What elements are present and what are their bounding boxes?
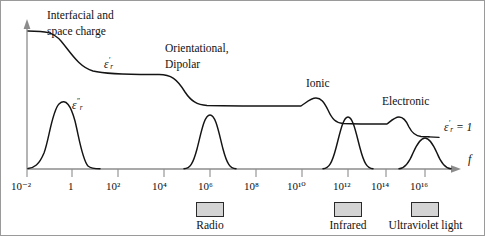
- x-tick-label-5: 10⁸: [244, 180, 259, 192]
- annotation-ionic: Ionic: [306, 77, 330, 90]
- dielectric-permittivity-figure: Interfacial and space charge Orientation…: [0, 0, 485, 236]
- x-axis: [27, 165, 461, 172]
- loss-peak-ionic: [323, 117, 373, 169]
- band-swatch-infrared: [334, 202, 362, 217]
- annotation-interfacial-line1: Interfacial and: [47, 9, 114, 22]
- annotation-orientational-line1: Orientational,: [165, 42, 229, 55]
- band-swatch-radio: [196, 202, 224, 217]
- band-label-radio: Radio: [170, 219, 250, 232]
- loss-peak-interfacial: [28, 102, 100, 169]
- x-tick-label-7: 10¹²: [333, 180, 351, 192]
- epsilon-imaginary-label: ε″r: [72, 98, 83, 112]
- loss-peak-dipolar: [184, 115, 236, 169]
- epsilon-limit-leader: [429, 137, 439, 138]
- epsilon-subscript: r: [110, 63, 113, 71]
- x-tick-label-2: 10²: [106, 180, 120, 192]
- x-tick-label-4: 10⁶: [198, 180, 213, 192]
- loss-peak-electronic: [399, 138, 451, 169]
- x-tick-label-1: 1: [68, 180, 74, 192]
- x-axis-label: f: [468, 153, 471, 166]
- x-tick-label-9: 10¹⁶: [410, 180, 428, 192]
- epsilon-real-label: ε′r: [104, 57, 113, 71]
- epsilon-subscript: r: [80, 104, 83, 112]
- x-tick-label-3: 10⁴: [152, 180, 167, 192]
- x-tick-label-0: 10⁻²: [11, 180, 31, 192]
- x-axis-ticks: [27, 169, 425, 177]
- band-swatch-ultraviolet: [411, 202, 439, 217]
- epsilon-limit-label: ε′r = 1: [444, 120, 472, 134]
- x-tick-label-6: 10¹⁰: [287, 180, 306, 192]
- epsilon-limit-value: = 1: [456, 121, 472, 133]
- annotation-electronic: Electronic: [382, 95, 429, 108]
- annotation-orientational-line2: Dipolar: [165, 58, 200, 71]
- band-label-ultraviolet: Ultraviolet light: [373, 219, 478, 232]
- epsilon-subscript: r: [450, 126, 453, 134]
- y-axis: [24, 19, 31, 169]
- x-tick-label-8: 10¹⁴: [371, 180, 389, 192]
- annotation-interfacial-line2: space charge: [47, 25, 106, 38]
